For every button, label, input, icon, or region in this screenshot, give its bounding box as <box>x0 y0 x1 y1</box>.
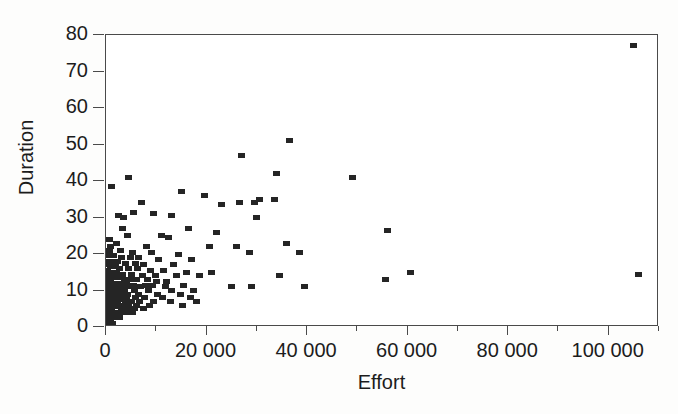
data-point <box>119 226 126 231</box>
x-tick-minor-mark <box>658 326 659 331</box>
data-point <box>276 273 283 278</box>
data-point <box>122 310 129 315</box>
y-tick-label: 80 <box>44 23 88 43</box>
data-point <box>125 175 132 180</box>
data-point <box>134 266 141 271</box>
data-point <box>190 288 197 293</box>
y-tick-label: 40 <box>44 169 88 189</box>
x-axis-title: Effort <box>105 371 658 394</box>
data-point <box>132 261 139 266</box>
data-point <box>149 283 156 288</box>
data-point <box>213 230 220 235</box>
data-point <box>228 284 235 289</box>
data-point <box>125 266 132 271</box>
data-point <box>283 241 290 246</box>
y-tick-label: 10 <box>44 279 88 299</box>
x-tick-mark <box>407 326 408 335</box>
data-point <box>117 248 124 253</box>
data-point <box>238 153 245 158</box>
data-point <box>273 171 280 176</box>
data-point <box>140 306 147 311</box>
data-point <box>144 277 151 282</box>
data-point <box>158 233 165 238</box>
y-tick-mark <box>93 217 104 218</box>
data-point <box>382 277 389 282</box>
data-point <box>271 197 278 202</box>
data-point <box>188 257 195 262</box>
data-point <box>114 259 121 264</box>
data-point <box>122 261 129 266</box>
y-tick-mark <box>93 107 104 108</box>
data-point <box>127 255 134 260</box>
data-point <box>251 200 258 205</box>
data-point <box>196 273 203 278</box>
data-point <box>146 303 153 308</box>
data-point <box>168 213 175 218</box>
data-point <box>193 299 200 304</box>
y-tick-label: 60 <box>44 96 88 116</box>
data-point <box>163 279 170 284</box>
y-tick-mark <box>93 71 104 72</box>
y-axis-title: Duration <box>15 88 38 228</box>
y-tick-label: 70 <box>44 60 88 80</box>
data-point <box>630 43 637 48</box>
data-point <box>110 253 117 258</box>
y-tick-label: 0 <box>44 315 88 335</box>
y-tick-mark <box>93 34 104 35</box>
data-point <box>170 262 177 267</box>
x-tick-minor-mark <box>155 326 156 331</box>
data-point <box>233 244 240 249</box>
data-point <box>179 303 186 308</box>
y-tick-label: 30 <box>44 206 88 226</box>
data-point <box>635 272 642 277</box>
data-point <box>201 193 208 198</box>
data-point <box>407 270 414 275</box>
x-tick-mark <box>206 326 207 335</box>
y-tick-mark <box>93 180 104 181</box>
data-point <box>165 235 172 240</box>
data-point <box>106 248 113 253</box>
data-point <box>349 175 356 180</box>
data-point <box>130 210 137 215</box>
data-point <box>135 255 142 260</box>
data-point <box>185 226 192 231</box>
data-point <box>248 284 255 289</box>
data-point <box>150 211 157 216</box>
data-point <box>145 288 152 293</box>
data-point <box>253 215 260 220</box>
data-point <box>296 250 303 255</box>
x-tick-label: 100 000 <box>538 340 678 360</box>
x-tick-mark <box>105 326 106 335</box>
data-point <box>128 272 135 277</box>
data-point <box>167 299 174 304</box>
x-tick-minor-mark <box>557 326 558 331</box>
data-point <box>160 268 167 273</box>
data-point <box>133 277 140 282</box>
data-point <box>124 233 131 238</box>
data-point <box>147 268 154 273</box>
data-points-layer <box>106 35 657 325</box>
scatter-plot-figure: 01020304050607080 020 00040 00060 00080 … <box>0 0 678 414</box>
y-tick-label: 20 <box>44 242 88 262</box>
data-point <box>246 250 253 255</box>
data-point <box>140 262 147 267</box>
x-tick-mark <box>507 326 508 335</box>
data-point <box>115 213 122 218</box>
data-point <box>106 322 110 325</box>
data-point <box>218 202 225 207</box>
x-tick-minor-mark <box>256 326 257 331</box>
data-point <box>236 200 243 205</box>
x-tick-minor-mark <box>356 326 357 331</box>
data-point <box>180 283 187 288</box>
data-point <box>148 250 155 255</box>
data-point <box>208 270 215 275</box>
x-tick-mark <box>608 326 609 335</box>
data-point <box>152 273 159 278</box>
data-point <box>137 284 144 289</box>
data-point <box>129 310 136 315</box>
y-tick-label: 50 <box>44 133 88 153</box>
data-point <box>175 252 182 257</box>
data-point <box>301 284 308 289</box>
y-tick-mark <box>93 253 104 254</box>
data-point <box>183 270 190 275</box>
